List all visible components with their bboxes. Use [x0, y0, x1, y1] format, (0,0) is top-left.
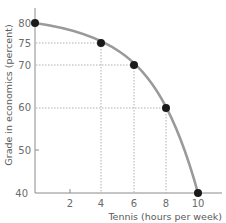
point-6-70: [130, 61, 138, 69]
y-tick-label: 80: [18, 18, 31, 29]
x-ticks: 2 4 6 8 10: [67, 189, 205, 209]
y-tick-label: 75: [18, 38, 31, 49]
x-tick-label: 4: [98, 198, 104, 209]
y-axis-title: Grade in economics (percent): [3, 24, 14, 165]
x-tick-label: 8: [163, 198, 169, 209]
point-0-80: [31, 19, 39, 27]
ppf-chart: 50 60 70 75 80 40 2 4 6 8 10 Tennis (hou…: [0, 0, 226, 223]
point-10-40: [194, 189, 202, 197]
x-tick-label: 10: [192, 198, 205, 209]
x-tick-label: 6: [131, 198, 137, 209]
x-tick-label: 2: [67, 198, 73, 209]
point-8-60: [162, 104, 170, 112]
y-tick-label: 70: [18, 60, 31, 71]
y-tick-label: 40: [15, 188, 28, 199]
point-4-75: [97, 39, 105, 47]
ppf-curve: [35, 23, 198, 193]
data-points: [31, 19, 202, 197]
x-axis-title: Tennis (hours per week): [107, 211, 222, 222]
y-tick-label: 60: [18, 102, 31, 113]
guide-lines: [36, 43, 166, 193]
y-tick-label: 50: [18, 145, 31, 156]
